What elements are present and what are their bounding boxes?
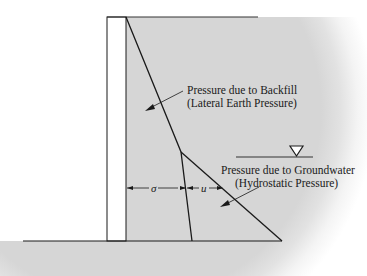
sigma-symbol: σ (149, 182, 158, 194)
u-symbol: u (199, 182, 209, 194)
groundwater-label-line1: Pressure due to Groundwater (221, 164, 355, 177)
diagram-graphics (0, 0, 367, 276)
soil-region (0, 0, 367, 276)
retaining-wall-diagram: Pressure due to Backfill (Lateral Earth … (0, 0, 367, 276)
groundwater-label-line2: (Hydrostatic Pressure) (235, 177, 338, 190)
retaining-wall (107, 17, 126, 241)
backfill-label-line2: (Lateral Earth Pressure) (187, 97, 297, 110)
backfill-label-line1: Pressure due to Backfill (187, 84, 297, 97)
